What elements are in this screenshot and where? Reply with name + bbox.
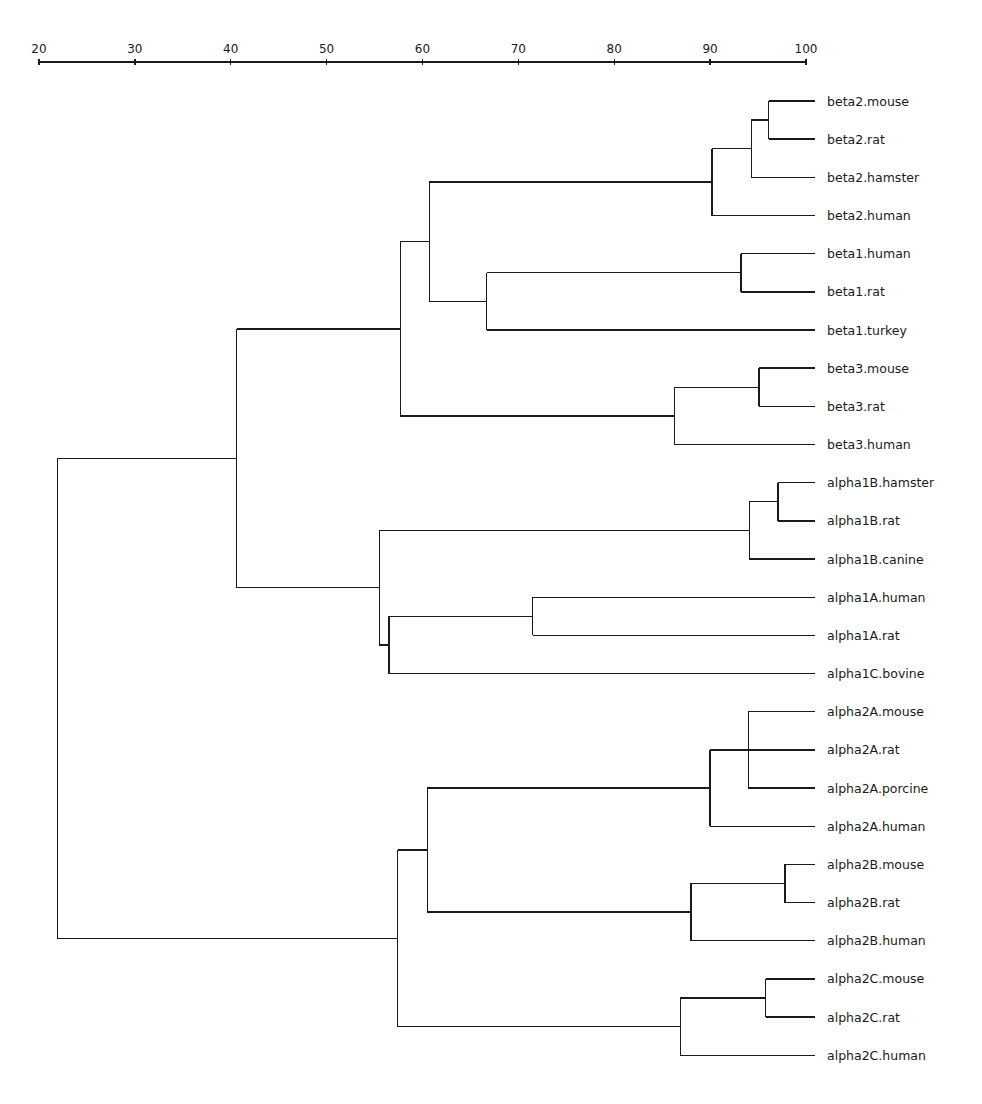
leaf-label: alpha2C.mouse xyxy=(827,971,925,986)
leaf-label: alpha1C.bovine xyxy=(827,666,925,681)
leaf-label: alpha2A.rat xyxy=(827,742,900,757)
leaf-label: beta2.mouse xyxy=(827,94,909,109)
axis-tick-label: 80 xyxy=(607,42,622,56)
leaf-label: beta1.human xyxy=(827,246,911,261)
leaf-label: alpha2A.porcine xyxy=(827,781,929,796)
leaf-label: alpha1A.human xyxy=(827,590,926,605)
leaf-label: alpha2A.mouse xyxy=(827,704,924,719)
axis-tick-label: 20 xyxy=(31,42,46,56)
axis-tick-label: 50 xyxy=(319,42,334,56)
similarity-axis: 2030405060708090100 xyxy=(31,42,817,65)
leaf-label: alpha1A.rat xyxy=(827,628,900,643)
leaf-label: alpha2C.rat xyxy=(827,1010,900,1025)
leaf-label: alpha2C.human xyxy=(827,1048,926,1063)
leaf-label: alpha2B.rat xyxy=(827,895,900,910)
leaf-label: alpha1B.rat xyxy=(827,513,900,528)
axis-tick-label: 100 xyxy=(795,42,818,56)
axis-tick-label: 90 xyxy=(702,42,717,56)
leaf-label: beta2.rat xyxy=(827,132,885,147)
leaf-label: beta3.human xyxy=(827,437,911,452)
leaf-label: alpha2B.mouse xyxy=(827,857,924,872)
leaf-label: beta2.human xyxy=(827,208,911,223)
dendrogram-chart: 2030405060708090100 beta2.mousebeta2.rat… xyxy=(0,0,982,1104)
leaf-label: beta2.hamster xyxy=(827,170,920,185)
axis-tick-label: 30 xyxy=(127,42,142,56)
leaf-label: beta1.rat xyxy=(827,284,885,299)
axis-tick-label: 60 xyxy=(415,42,430,56)
leaf-label: alpha1B.hamster xyxy=(827,475,935,490)
axis-tick-label: 70 xyxy=(511,42,526,56)
leaf-label: beta3.mouse xyxy=(827,361,909,376)
axis-tick-label: 40 xyxy=(223,42,238,56)
leaf-label: beta3.rat xyxy=(827,399,885,414)
leaf-label: beta1.turkey xyxy=(827,323,908,338)
leaf-label: alpha1B.canine xyxy=(827,552,924,567)
leaf-label: alpha2A.human xyxy=(827,819,926,834)
leaf-labels: beta2.mousebeta2.ratbeta2.hamsterbeta2.h… xyxy=(827,94,935,1063)
tree-branches xyxy=(57,101,815,1055)
leaf-label: alpha2B.human xyxy=(827,933,926,948)
